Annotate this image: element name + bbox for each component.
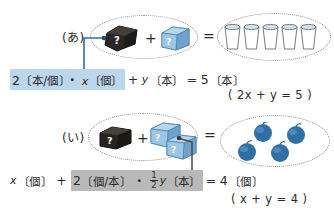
blue-cube-question-mark: ? — [166, 37, 171, 47]
eq-a-equals: = — [187, 72, 198, 87]
eq-a-dot: ・ — [66, 73, 79, 88]
equation-a: 2〔本/個〕・x〔個〕 + y 〔本〕 = 5 〔本〕 — [10, 69, 244, 90]
eq-a-var2: y — [142, 73, 149, 86]
blue-cube-question-mark: ? — [155, 133, 160, 143]
black-box-question-mark: ? — [114, 35, 120, 46]
operator-plus-a: + — [145, 31, 157, 45]
relation-equals-b: = — [204, 128, 216, 142]
figure-canvas: (あ) ? + ? = — [0, 0, 334, 218]
eq-b-var2: y — [160, 174, 167, 187]
blue-cube-pair: ? ? — [149, 118, 197, 160]
eq-a-result-unit: 〔本〕 — [210, 72, 244, 88]
black-box-question-mark: ? — [107, 135, 113, 146]
black-box-icon: ? — [96, 124, 136, 152]
row-label-b: (い) — [62, 128, 85, 145]
relation-equals-a: = — [203, 29, 215, 43]
eq-a-coef-unit: 〔本/個〕 — [20, 74, 64, 88]
eq-b-fraction: 12 — [150, 171, 158, 190]
blue-cube-question-mark: ? — [171, 145, 176, 155]
eq-b-var2-unit: 〔本〕 — [167, 173, 201, 189]
eq-a-result: 5 — [201, 72, 209, 87]
eq-b-equals: = — [206, 173, 217, 188]
operator-plus-b: + — [137, 131, 149, 145]
eq-b-coef: 2 — [73, 173, 81, 188]
eq-a-var1: x — [82, 75, 89, 88]
equation-b: x 〔個〕 + 2〔個/本〕・12y〔本〕 = 4 〔個〕 — [10, 170, 263, 191]
equation-b-highlight: 2〔個/本〕・12y〔本〕 — [71, 170, 203, 191]
eq-b-plus: + — [56, 173, 67, 188]
eq-b-result: 4 — [220, 173, 228, 188]
eq-b-dot: ・ — [133, 171, 146, 190]
eq-b-coef-unit: 〔個/本〕 — [81, 173, 131, 189]
simplified-equation-a: ( 2x + y = 5 ) — [228, 88, 312, 102]
eq-b-var1-unit: 〔個〕 — [18, 173, 52, 189]
row-label-a: (あ) — [62, 28, 85, 45]
eq-b-frac-numerator: 1 — [150, 171, 158, 180]
berry-group — [228, 122, 324, 164]
eq-a-var1-unit: 〔個〕 — [89, 74, 123, 88]
eq-b-result-unit: 〔個〕 — [229, 173, 263, 189]
eq-b-frac-denominator: 2 — [150, 181, 158, 190]
eq-a-plus: + — [128, 72, 139, 87]
black-box-icon: ? — [101, 23, 141, 53]
cup-group — [223, 23, 325, 53]
blue-cube-icon: ? — [159, 23, 193, 53]
simplified-equation-b: ( x + y = 4 ) — [231, 192, 307, 206]
eq-a-var2-unit: 〔本〕 — [150, 72, 184, 88]
eq-b-var1: x — [10, 174, 17, 187]
equation-a-highlight: 2〔本/個〕・x〔個〕 — [10, 69, 125, 90]
